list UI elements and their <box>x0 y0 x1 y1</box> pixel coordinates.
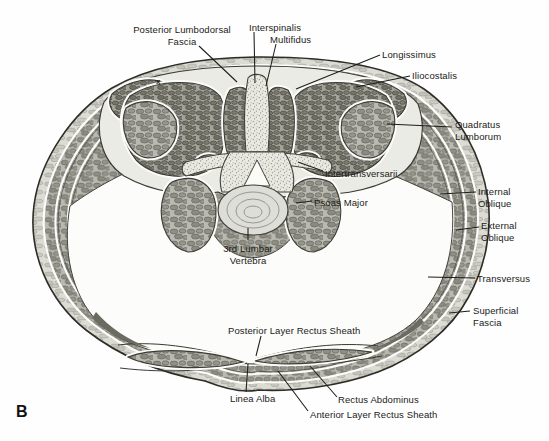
cross-section-illustration <box>0 0 549 441</box>
annotation-x-mark: x <box>156 77 160 86</box>
label-interspinalis: Interspinalis <box>249 22 301 34</box>
label-posterior-lumbodorsal-fascia: Posterior Lumbodorsal Fascia <box>130 24 234 47</box>
vertebral-body <box>218 185 288 235</box>
panel-letter: B <box>16 403 28 421</box>
label-superficial-fascia: Superficial Fascia <box>473 305 518 328</box>
label-multifidus: Multifidus <box>270 34 311 46</box>
label-rectus-abdominus: Rectus Abdominus <box>338 394 419 406</box>
label-linea-alba: Linea Alba <box>230 393 275 405</box>
anatomical-figure: Posterior Lumbodorsal Fascia Interspinal… <box>0 0 549 441</box>
label-posterior-layer-rectus-sheath: Posterior Layer Rectus Sheath <box>228 325 360 337</box>
label-iliocostalis: Iliocostalis <box>412 70 457 82</box>
label-transversus: Transversus <box>477 273 530 285</box>
label-anterior-layer-rectus-sheath: Anterior Layer Rectus Sheath <box>310 409 437 421</box>
spinous-process <box>245 74 270 152</box>
label-intertransversarii: Intertransversarii <box>325 168 398 180</box>
multifidus-right <box>268 87 294 162</box>
label-third-lumbar-vertebra: 3rd Lumbar Vertebra <box>210 243 286 266</box>
label-external-oblique: External Oblique <box>481 220 517 243</box>
label-psoas-major: Psoas Major <box>314 197 368 209</box>
label-longissimus: Longissimus <box>382 49 436 61</box>
label-quadratus-lumborum: Quadratus Lumborum <box>455 119 501 142</box>
label-internal-oblique: Internal Oblique <box>478 186 511 209</box>
